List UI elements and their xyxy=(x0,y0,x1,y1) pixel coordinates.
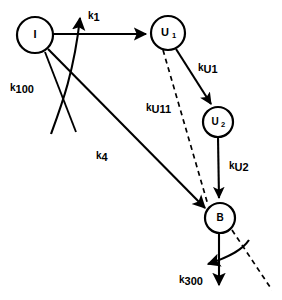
node-U2[interactable]: U 2 xyxy=(203,107,233,137)
node-I-label: I xyxy=(33,28,36,40)
rate-label-kU2: kU2 xyxy=(229,158,249,174)
node-U2-subscript: 2 xyxy=(221,120,225,129)
rate-kU11-subscript: U11 xyxy=(152,103,172,115)
rate-kU2-subscript: U2 xyxy=(235,161,249,173)
flux-line-dashed-tail xyxy=(232,230,272,290)
flux-arrow-k300-cross xyxy=(208,240,249,264)
rate-label-k1: k1 xyxy=(88,8,100,24)
flux-arrow-k4 xyxy=(48,49,205,208)
node-B-label: B xyxy=(216,212,223,223)
node-B[interactable]: B xyxy=(205,203,235,233)
rate-kU1-subscript: U1 xyxy=(204,63,218,75)
node-U1[interactable]: U 1 xyxy=(151,16,185,50)
rate-label-kU11: kU11 xyxy=(146,100,171,116)
node-I[interactable]: I xyxy=(17,17,53,53)
rate-label-k4: k4 xyxy=(96,148,108,164)
rate-k300-subscript: 300 xyxy=(185,275,203,287)
rate-label-k100: k100 xyxy=(10,80,34,96)
node-U1-label: U xyxy=(161,26,169,38)
flux-arrow-kU2 xyxy=(218,137,219,198)
flux-arrow-kU1 xyxy=(176,49,211,104)
compartment-diagram-canvas: I U 1 U 2 B xyxy=(0,0,282,300)
rate-label-k300: k300 xyxy=(179,272,203,288)
node-U2-label: U xyxy=(211,116,218,127)
rate-k4-subscript: 4 xyxy=(102,151,108,163)
rate-k1-subscript: 1 xyxy=(94,11,100,23)
flux-line-k100-source xyxy=(45,52,76,132)
rate-k100-subscript: 100 xyxy=(16,83,34,95)
rate-label-kU1: kU1 xyxy=(198,60,218,76)
kinetic-diagram: I U 1 U 2 B k1 k100 k4 kU1 kU11 xyxy=(0,0,282,300)
node-U1-subscript: 1 xyxy=(172,31,176,40)
